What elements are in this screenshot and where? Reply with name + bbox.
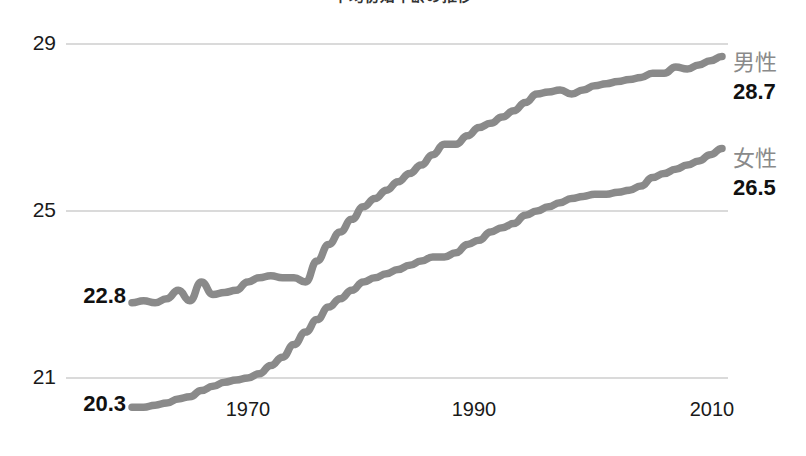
male-end-value-label: 28.7 [733,79,776,105]
series-line-female [132,148,722,407]
x-tick-label-1990: 1990 [434,398,514,421]
y-tick-label-25: 25 [6,198,56,222]
male-start-value-label: 22.8 [56,283,126,309]
female-end-value-label: 26.5 [733,175,776,201]
y-tick-label-21: 21 [6,365,56,389]
gridlines-group [66,44,728,378]
series-lines-group [132,57,722,408]
x-tick-label-2010: 2010 [672,398,752,421]
female-start-value-label: 20.3 [56,391,126,417]
plot-area [0,0,806,456]
series-label-male: 男性 [733,44,777,76]
chart-container: 平均初婚年齢の推移 29 25 21 1970 1990 2010 22.8 2… [0,0,806,456]
series-line-male [132,57,722,303]
y-tick-label-29: 29 [6,31,56,55]
x-tick-label-1970: 1970 [208,398,288,421]
series-label-female: 女性 [733,140,777,172]
